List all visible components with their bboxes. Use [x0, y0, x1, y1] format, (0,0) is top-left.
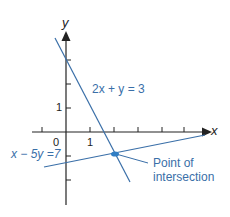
annotation-line-1: Point of — [153, 156, 194, 170]
intersection-point — [111, 151, 119, 156]
x-tick-label-1: 1 — [87, 136, 93, 148]
y-axis — [62, 31, 72, 205]
y-tick-label-1: 1 — [56, 101, 62, 113]
annotation-leader — [116, 154, 148, 163]
y-axis-label: y — [62, 15, 69, 30]
equation-label-2: x − 5y =7 — [11, 147, 60, 161]
coordinate-plane — [0, 0, 230, 217]
annotation-line-2: intersection — [153, 170, 214, 184]
equation-label-1: 2x + y = 3 — [92, 82, 145, 96]
x-axis-label: x — [211, 123, 218, 138]
y-axis-arrow-icon — [62, 31, 71, 41]
